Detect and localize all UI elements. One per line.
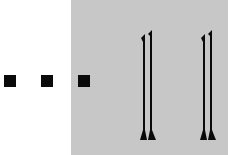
square-dot-icon [4, 75, 16, 87]
double-stroke-glyph-icon [139, 30, 159, 142]
square-dot-icon [78, 75, 90, 87]
double-stroke-glyph-icon [199, 30, 219, 142]
square-dot-icon [41, 75, 53, 87]
